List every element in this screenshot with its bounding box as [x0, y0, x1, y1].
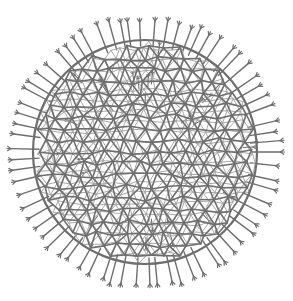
- lattice-bar: [68, 203, 81, 205]
- lattice-bar: [181, 178, 183, 185]
- lattice-bar: [80, 121, 87, 134]
- lattice-bar: [93, 80, 99, 93]
- lattice-bar: [171, 103, 186, 104]
- lattice-bar: [165, 72, 173, 81]
- lattice-bar: [179, 211, 184, 223]
- lattice-bar: [188, 128, 198, 129]
- lattice-bar: [228, 177, 239, 178]
- lattice-bar: [138, 255, 152, 256]
- lattice-bar: [150, 100, 164, 101]
- lattice-bar: [200, 58, 205, 69]
- lattice-bar: [139, 233, 152, 234]
- lattice-bar: [176, 121, 181, 132]
- lattice-bar: [171, 151, 186, 153]
- lattice-bar: [155, 181, 164, 191]
- lattice-bar: [235, 112, 240, 121]
- lattice-bar: [200, 201, 210, 202]
- lattice-bar: [164, 101, 167, 112]
- lattice-bar: [125, 255, 138, 256]
- lattice-bar: [105, 196, 116, 198]
- lattice-bar: [221, 177, 227, 188]
- spine: [128, 208, 131, 218]
- lattice-bar: [59, 209, 69, 210]
- spine: [121, 23, 126, 48]
- lattice-bar: [140, 173, 147, 187]
- spine: [38, 74, 59, 90]
- spine: [155, 258, 157, 284]
- lattice-bar: [126, 185, 140, 188]
- spine: [207, 238, 224, 261]
- lattice-bar: [186, 234, 192, 246]
- spine-fork: [193, 276, 194, 280]
- spine-fork: [109, 18, 110, 22]
- lattice-bar: [149, 181, 163, 182]
- lattice-bar: [151, 131, 158, 142]
- lattice-bar: [220, 211, 231, 212]
- lattice-bar: [171, 129, 179, 140]
- lattice-bar: [109, 68, 125, 69]
- lattice-bar: [63, 219, 78, 220]
- spine: [11, 149, 39, 150]
- spine-fork: [276, 121, 280, 122]
- spine-fork: [180, 283, 181, 287]
- lattice-bar: [128, 94, 141, 95]
- lattice-bar: [183, 177, 200, 178]
- spine-fork: [274, 132, 278, 134]
- lattice-bar: [179, 172, 191, 174]
- lattice-bar: [146, 105, 150, 119]
- lattice-bar: [113, 152, 120, 161]
- lattice-bar: [40, 152, 46, 164]
- lattice-bar: [253, 154, 256, 164]
- lattice-bar: [151, 173, 157, 189]
- lattice-bar: [182, 109, 186, 120]
- lattice-bar: [171, 103, 177, 114]
- lattice-bar: [163, 232, 178, 234]
- lattice-bar: [110, 243, 116, 256]
- lattice-bar: [152, 131, 160, 142]
- lattice-bar: [105, 60, 109, 69]
- lattice-bar: [146, 129, 152, 142]
- spine: [203, 39, 219, 64]
- spine: [121, 256, 126, 283]
- lattice-bar: [200, 175, 210, 177]
- lattice-bar: [167, 175, 172, 187]
- lattice-bar: [203, 192, 215, 193]
- lattice-bar: [212, 150, 225, 152]
- lattice-bar: [196, 106, 213, 107]
- spine-fork: [127, 18, 129, 22]
- lattice-bar: [87, 209, 96, 210]
- lattice-bar: [172, 222, 184, 223]
- lattice-bar: [70, 171, 73, 184]
- lattice-bar: [159, 222, 172, 223]
- lattice-bar: [172, 58, 183, 59]
- lattice-bar: [127, 45, 138, 48]
- lattice-bar: [220, 197, 229, 213]
- lattice-bar: [227, 211, 230, 222]
- lattice-bar: [140, 201, 145, 208]
- spine: [250, 132, 274, 136]
- lattice-bar: [198, 221, 204, 236]
- lattice-bar: [166, 49, 181, 50]
- spine-fork: [233, 251, 234, 255]
- spine: [153, 21, 155, 46]
- lattice-bar: [104, 150, 120, 152]
- lattice-bar: [226, 152, 238, 153]
- lattice-bar: [104, 105, 119, 106]
- spine-fork: [97, 21, 98, 25]
- lattice-bar: [192, 199, 198, 209]
- lattice-bar: [122, 120, 126, 131]
- lattice-bar: [92, 56, 97, 71]
- spine-fork: [202, 273, 203, 277]
- lattice-bar: [36, 164, 45, 176]
- lattice-bar: [163, 139, 179, 141]
- lattice-bar: [66, 196, 77, 197]
- spine: [12, 166, 40, 170]
- spine: [30, 82, 55, 97]
- lattice-bar: [237, 152, 246, 161]
- lattice-bar: [74, 214, 86, 215]
- spine: [14, 134, 40, 138]
- lattice-bar: [157, 57, 172, 58]
- lattice-bar: [55, 118, 72, 119]
- lattice-bar: [193, 185, 208, 186]
- lattice-bar: [120, 89, 132, 91]
